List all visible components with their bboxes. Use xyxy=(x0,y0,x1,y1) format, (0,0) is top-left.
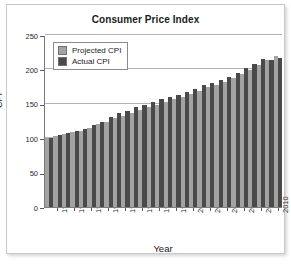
bar-group xyxy=(240,36,248,207)
chart-legend: Projected CPI Actual CPI xyxy=(53,42,128,70)
x-tick-mark xyxy=(227,208,228,211)
bar-group xyxy=(248,36,256,207)
y-tick-label: 50 xyxy=(8,169,38,178)
chart-figure: Consumer Price Index CPI 050100150200250… xyxy=(0,0,291,264)
x-tick-mark xyxy=(193,208,194,211)
bar-group xyxy=(206,36,214,207)
bar-group xyxy=(172,36,180,207)
x-tick-mark xyxy=(142,208,143,211)
x-tick-mark xyxy=(125,208,126,211)
bar-group xyxy=(274,36,282,207)
bar-group xyxy=(130,36,138,207)
y-tick-mark xyxy=(40,208,44,209)
bar-group xyxy=(138,36,146,207)
y-tick-label: 200 xyxy=(8,66,38,75)
bar-group xyxy=(155,36,163,207)
legend-swatch-projected-icon xyxy=(58,46,67,55)
y-tick-label: 100 xyxy=(8,135,38,144)
gridline xyxy=(45,34,282,35)
bar-group xyxy=(223,36,231,207)
bar-group xyxy=(147,36,155,207)
x-tick-mark xyxy=(57,208,58,211)
y-tick-label: 150 xyxy=(8,100,38,109)
x-tick-mark xyxy=(261,208,262,211)
x-tick-mark xyxy=(244,208,245,211)
legend-label-actual: Actual CPI xyxy=(72,57,110,66)
chart-title: Consumer Price Index xyxy=(0,14,291,25)
y-tick-label: 0 xyxy=(8,204,38,213)
x-tick-mark xyxy=(74,208,75,211)
legend-swatch-actual-icon xyxy=(58,57,67,66)
y-tick-label: 250 xyxy=(8,32,38,41)
legend-label-projected: Projected CPI xyxy=(72,46,121,55)
x-tick-mark xyxy=(91,208,92,211)
legend-item-projected: Projected CPI xyxy=(58,46,121,55)
bar-group xyxy=(181,36,189,207)
x-tick-mark xyxy=(210,208,211,211)
bar-group xyxy=(164,36,172,207)
bar-group xyxy=(265,36,273,207)
bar-group xyxy=(257,36,265,207)
x-tick-mark xyxy=(108,208,109,211)
bar-group xyxy=(231,36,239,207)
bar-group xyxy=(197,36,205,207)
y-axis-title: CPI xyxy=(0,93,4,108)
x-tick-mark xyxy=(278,208,279,211)
x-axis-title: Year xyxy=(44,243,282,254)
bar-actual xyxy=(278,58,282,207)
bar-group xyxy=(189,36,197,207)
x-tick-label: 2010 xyxy=(281,196,290,213)
x-tick-mark xyxy=(176,208,177,211)
x-tick-mark xyxy=(159,208,160,211)
bar-group xyxy=(214,36,222,207)
legend-item-actual: Actual CPI xyxy=(58,57,121,66)
